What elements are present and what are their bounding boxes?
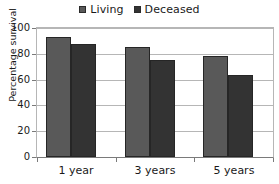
y-tick-label-60: 60: [17, 75, 30, 85]
x-tick-mark-1: [116, 158, 117, 162]
bars-layer: [37, 28, 273, 157]
y-tick-label-80: 80: [17, 49, 30, 59]
x-axis-ticks: [36, 158, 274, 163]
x-tick-mark-3: [273, 158, 274, 162]
bar-living-5-years: [203, 56, 228, 157]
y-tick-label-100: 100: [11, 23, 30, 33]
legend-swatch-deceased: [134, 6, 141, 13]
chart-legend: Living Deceased: [0, 1, 279, 17]
legend-item-deceased: Deceased: [134, 4, 200, 15]
bar-living-1-year: [46, 37, 71, 157]
survival-bar-chart: Living Deceased Percentage survival 0204…: [0, 0, 279, 184]
y-axis-ticks: 020406080100: [0, 0, 36, 158]
legend-label-deceased: Deceased: [145, 4, 200, 15]
bar-deceased-5-years: [228, 75, 253, 157]
legend-label-living: Living: [90, 4, 123, 15]
x-tick-mark-0: [37, 158, 38, 162]
y-tick-label-20: 20: [17, 126, 30, 136]
bar-deceased-1-year: [71, 44, 96, 157]
x-tick-mark-2: [194, 158, 195, 162]
x-tick-label-3-years: 3 years: [135, 164, 176, 177]
bar-deceased-3-years: [150, 60, 175, 157]
x-axis-labels: 1 year3 years5 years: [36, 164, 274, 180]
x-tick-label-1-year: 1 year: [58, 164, 93, 177]
legend-item-living: Living: [79, 4, 123, 15]
legend-swatch-living: [79, 6, 86, 13]
y-tick-label-0: 0: [24, 152, 30, 162]
y-tick-label-40: 40: [17, 100, 30, 110]
x-tick-label-5-years: 5 years: [214, 164, 255, 177]
bar-living-3-years: [125, 47, 150, 157]
